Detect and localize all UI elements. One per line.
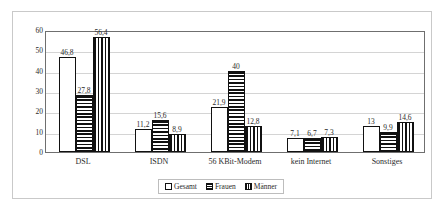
bar-value-label: 21,9 <box>212 98 225 107</box>
bar-value-label: 13 <box>367 117 375 126</box>
x-axis-category-label: DSL <box>75 157 90 166</box>
y-axis-tick-label: 60 <box>21 27 43 35</box>
bar[interactable]: 13 <box>363 126 380 152</box>
bar-group: 7,16,77,3 <box>274 32 350 152</box>
bar-value-label: 6,7 <box>307 129 316 138</box>
legend-label: Frauen <box>215 182 236 191</box>
bar-value-label: 40 <box>232 62 240 71</box>
bar[interactable]: 15,6 <box>152 120 169 152</box>
bar[interactable]: 11,2 <box>135 129 152 152</box>
y-axis-tick-label: 50 <box>21 47 43 55</box>
bar-slot: 9,9 <box>380 32 397 152</box>
legend-label: Gesamt <box>174 182 197 191</box>
bar[interactable]: 40 <box>228 71 245 152</box>
bar-group: 139,914,6 <box>350 32 426 152</box>
bar-slot: 7,1 <box>287 32 304 152</box>
y-axis-tick-labels: 0102030405060 <box>18 31 43 153</box>
y-axis-tick-label: 20 <box>21 108 43 116</box>
legend-swatch-icon <box>206 183 213 190</box>
legend-swatch-icon <box>165 183 172 190</box>
bar-slot: 56,4 <box>93 32 110 152</box>
bar-group-bars: 11,215,68,9 <box>122 32 198 152</box>
legend-item[interactable]: Männer <box>245 182 277 191</box>
bar-group: 11,215,68,9 <box>122 32 198 152</box>
legend-swatch-icon <box>245 183 252 190</box>
plot-area: 46,827,856,411,215,68,921,94012,87,16,77… <box>45 31 425 153</box>
y-axis-tick-label: 40 <box>21 68 43 76</box>
bar-value-label: 11,2 <box>137 120 150 129</box>
bar-slot: 21,9 <box>211 32 228 152</box>
bar-slot: 13 <box>363 32 380 152</box>
bar[interactable]: 21,9 <box>211 107 228 152</box>
bar[interactable]: 9,9 <box>380 132 397 152</box>
bar-slot: 40 <box>228 32 245 152</box>
x-axis-category-label: 56 KBit-Modem <box>208 157 261 166</box>
x-axis-category-label: Sonstiges <box>372 157 403 166</box>
bar[interactable]: 7,3 <box>321 137 338 152</box>
bar-value-label: 27,8 <box>77 86 90 95</box>
bar-slot: 12,8 <box>245 32 262 152</box>
bar-slot: 15,6 <box>152 32 169 152</box>
bar-value-label: 7,3 <box>324 128 333 137</box>
legend-item[interactable]: Frauen <box>206 182 236 191</box>
x-axis-category-label: ISDN <box>150 157 169 166</box>
bar-group: 21,94012,8 <box>198 32 274 152</box>
bar-value-label: 9,9 <box>383 123 392 132</box>
bar-slot: 46,8 <box>59 32 76 152</box>
y-axis-tick-label: 0 <box>21 149 43 157</box>
bar-value-label: 12,8 <box>246 117 259 126</box>
legend-item[interactable]: Gesamt <box>165 182 197 191</box>
bar[interactable]: 27,8 <box>76 95 93 152</box>
y-axis-tick-label: 30 <box>21 88 43 96</box>
bar-group: 46,827,856,4 <box>46 32 122 152</box>
x-axis-category-labels: DSLISDN56 KBit-Modemkein InternetSonstig… <box>45 157 425 171</box>
bar[interactable]: 56,4 <box>93 37 110 152</box>
bar[interactable]: 46,8 <box>59 57 76 152</box>
bar-group-bars: 21,94012,8 <box>198 32 274 152</box>
bar-value-label: 8,9 <box>172 125 181 134</box>
bar-value-label: 15,6 <box>153 111 166 120</box>
bar[interactable]: 8,9 <box>169 134 186 152</box>
bar-slot: 7,3 <box>321 32 338 152</box>
bar-value-label: 56,4 <box>94 28 107 37</box>
chart-legend: GesamtFrauenMänner <box>158 179 284 194</box>
y-axis-tick-label: 10 <box>21 129 43 137</box>
bar-slot: 6,7 <box>304 32 321 152</box>
bar[interactable]: 6,7 <box>304 138 321 152</box>
chart-figure: 0102030405060 46,827,856,411,215,68,921,… <box>0 0 447 214</box>
bar[interactable]: 7,1 <box>287 138 304 152</box>
x-axis-category-label: kein Internet <box>291 157 332 166</box>
bar-value-label: 7,1 <box>290 129 299 138</box>
bar-slot: 8,9 <box>169 32 186 152</box>
bar[interactable]: 14,6 <box>397 122 414 152</box>
bar-group-bars: 7,16,77,3 <box>274 32 350 152</box>
bar-value-label: 46,8 <box>60 48 73 57</box>
bar-slot: 14,6 <box>397 32 414 152</box>
legend-label: Männer <box>254 182 277 191</box>
bar-group-bars: 139,914,6 <box>350 32 426 152</box>
bar[interactable]: 12,8 <box>245 126 262 152</box>
bar-slot: 11,2 <box>135 32 152 152</box>
bar-value-label: 14,6 <box>398 113 411 122</box>
bar-slot: 27,8 <box>76 32 93 152</box>
bar-group-bars: 46,827,856,4 <box>46 32 122 152</box>
